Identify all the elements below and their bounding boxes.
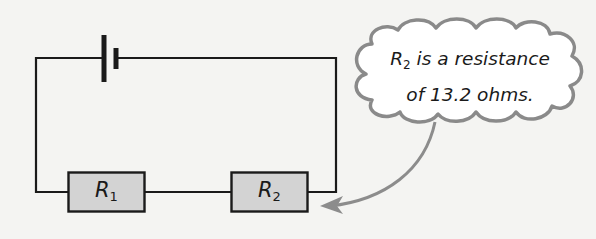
circuit-svg — [0, 0, 596, 239]
circuit-diagram: R1 R2 R2 is a resistance of 13.2 ohms. — [0, 0, 596, 239]
r2-subscript: 2 — [273, 189, 281, 204]
battery-short-plate — [114, 48, 119, 69]
callout-r-letter: R — [390, 48, 403, 69]
battery-icon — [102, 35, 119, 82]
resistor-r1-label: R1 — [95, 178, 118, 204]
callout-arrow — [320, 122, 435, 214]
callout-r-subscript: 2 — [403, 58, 411, 72]
callout-line-1: R2 is a resistance — [360, 44, 580, 80]
callout-line-1-rest: is a resistance — [411, 48, 550, 69]
r1-subscript: 1 — [110, 189, 118, 204]
r2-letter: R — [258, 178, 273, 202]
resistor-r2-label: R2 — [258, 178, 281, 204]
callout-text: R2 is a resistance of 13.2 ohms. — [360, 44, 580, 109]
battery-long-plate — [102, 35, 107, 82]
r1-letter: R — [95, 178, 110, 202]
arrow-shaft — [330, 122, 435, 206]
callout-line-2: of 13.2 ohms. — [360, 80, 580, 109]
